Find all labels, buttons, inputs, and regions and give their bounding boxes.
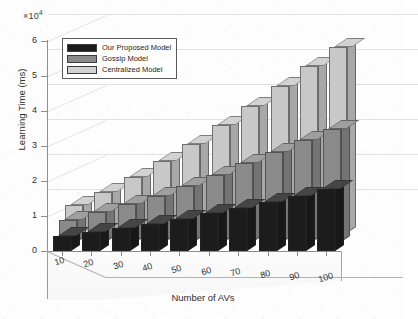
x-tick-60	[209, 251, 210, 256]
x-tick-100	[326, 251, 327, 256]
bar-our-proposed-model-20	[82, 232, 100, 251]
bar-our-proposed-model-40	[141, 224, 159, 251]
bar-front-face	[53, 236, 71, 251]
legend-swatch	[67, 55, 97, 63]
x-tick-70	[238, 251, 239, 256]
bar-our-proposed-model-80	[259, 202, 277, 251]
bar-our-proposed-model-90	[288, 196, 306, 251]
bar-front-face	[141, 224, 159, 251]
bar-top-face	[334, 38, 365, 47]
bar-side-face	[218, 207, 227, 251]
legend-item-gossip-model[interactable]: Gossip Model	[67, 53, 171, 64]
bar-front-face	[288, 196, 306, 251]
bar-side-face	[247, 202, 256, 251]
bar-front-face	[259, 202, 277, 251]
bar-our-proposed-model-10	[53, 236, 71, 251]
x-tick-50	[179, 251, 180, 256]
bar-front-face	[229, 208, 247, 251]
bar-side-face	[306, 190, 315, 251]
bar-our-proposed-model-50	[170, 219, 188, 251]
x-tick-30	[121, 251, 122, 256]
bar-side-face	[335, 183, 344, 251]
legend-label: Centralized Model	[102, 65, 162, 74]
bar-front-face	[82, 232, 100, 251]
bar-our-proposed-model-30	[112, 228, 130, 251]
x-tick-40	[150, 251, 151, 256]
bar-our-proposed-model-100	[317, 189, 335, 251]
legend-swatch	[67, 44, 97, 52]
x-tick-80	[268, 251, 269, 256]
bar-front-face	[170, 219, 188, 251]
bar-side-face	[277, 196, 286, 251]
chart-legend: Our Proposed ModelGossip ModelCentralize…	[62, 38, 177, 79]
x-tick-20	[91, 251, 92, 256]
legend-item-our-proposed-model[interactable]: Our Proposed Model	[67, 42, 171, 53]
legend-label: Gossip Model	[102, 54, 148, 63]
legend-item-centralized-model[interactable]: Centralized Model	[67, 64, 171, 75]
legend-swatch	[67, 66, 97, 74]
x-tick-90	[297, 251, 298, 256]
bar-front-face	[317, 189, 335, 251]
bar-our-proposed-model-70	[229, 208, 247, 251]
bar-front-face	[200, 213, 218, 251]
bar-our-proposed-model-60	[200, 213, 218, 251]
legend-label: Our Proposed Model	[102, 43, 171, 52]
bar-front-face	[112, 228, 130, 251]
